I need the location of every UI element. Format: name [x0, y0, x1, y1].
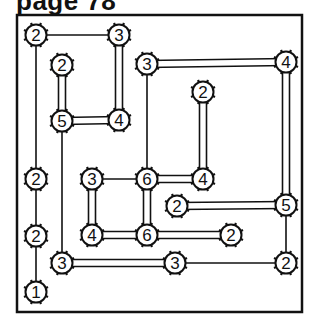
island-node[interactable]: 4 [107, 108, 131, 132]
island-node[interactable]: 2 [191, 80, 215, 104]
island-node[interactable]: 2 [24, 23, 48, 47]
island-value: 2 [281, 254, 290, 273]
island-node[interactable]: 1 [24, 280, 48, 304]
island-value: 4 [281, 53, 290, 72]
island-node[interactable]: 2 [50, 53, 74, 77]
double-bridge[interactable] [147, 59, 286, 68]
island-node[interactable]: 2 [165, 194, 189, 218]
double-bridge[interactable] [177, 202, 286, 210]
island-value: 2 [31, 26, 40, 45]
island-node[interactable]: 4 [80, 223, 104, 247]
island-value: 2 [172, 197, 181, 216]
island-node[interactable]: 3 [107, 23, 131, 47]
island-value: 3 [142, 55, 151, 74]
island-value: 1 [31, 283, 40, 302]
island-node[interactable]: 5 [274, 193, 298, 217]
island-value: 2 [198, 83, 207, 102]
island-value: 4 [87, 226, 96, 245]
double-bridge[interactable] [283, 62, 290, 205]
island-node[interactable]: 3 [135, 52, 159, 76]
island-value: 6 [142, 226, 151, 245]
island-value: 3 [114, 26, 123, 45]
island-node[interactable]: 6 [135, 167, 159, 191]
island-node[interactable]: 2 [24, 224, 48, 248]
island-value: 2 [57, 56, 66, 75]
hashi-puzzle-board: 2323425423642524623321 [0, 0, 309, 317]
double-bridge[interactable] [116, 35, 123, 120]
double-bridge[interactable] [200, 92, 207, 179]
double-bridge[interactable] [62, 260, 175, 267]
island-value: 6 [142, 170, 151, 189]
island-value: 2 [31, 170, 40, 189]
island-value: 4 [114, 111, 123, 130]
island-node[interactable]: 2 [219, 223, 243, 247]
island-value: 2 [226, 226, 235, 245]
island-node[interactable]: 3 [80, 167, 104, 191]
island-node[interactable]: 3 [50, 251, 74, 275]
island-value: 4 [198, 170, 207, 189]
bridges-layer [36, 35, 290, 292]
island-value: 2 [31, 227, 40, 246]
island-node[interactable]: 2 [24, 167, 48, 191]
island-node[interactable]: 6 [135, 223, 159, 247]
island-node[interactable]: 2 [274, 251, 298, 275]
double-bridge[interactable] [147, 232, 231, 239]
island-node[interactable]: 4 [274, 50, 298, 74]
island-value: 3 [87, 170, 96, 189]
island-node[interactable]: 4 [191, 167, 215, 191]
island-node[interactable]: 3 [163, 251, 187, 275]
island-value: 5 [281, 196, 290, 215]
island-node[interactable]: 5 [50, 109, 74, 133]
island-value: 3 [57, 254, 66, 273]
island-value: 3 [170, 254, 179, 273]
island-value: 5 [57, 112, 66, 131]
